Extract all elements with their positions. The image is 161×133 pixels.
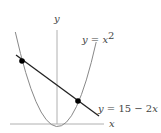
diagram-canvas: y x y = x2 y = 15 − 2x [0,0,161,133]
parabola-curve [15,32,96,127]
parabola-label: y = x2 [81,30,114,45]
intersection-point-left [19,58,25,64]
line-label: y = 15 − 2x [97,103,158,114]
y-axis-label: y [53,13,60,24]
intersection-point-right [75,98,81,104]
x-axis-label: x [109,118,115,129]
